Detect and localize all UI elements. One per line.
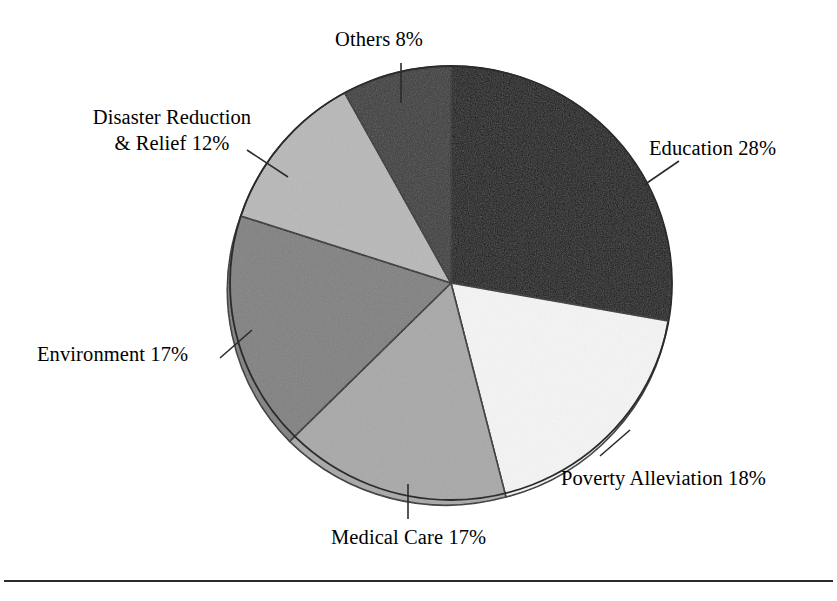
pie-chart-figure: Others 8% Disaster Reduction & Relief 12… [0,0,837,601]
pie-label-environment: Environment 17% [37,342,188,367]
pie-label-disaster-reduction-relief: Disaster Reduction & Relief 12% [72,104,272,156]
pie-label-education: Education 28% [649,136,776,161]
pie-label-poverty-alleviation: Poverty Alleviation 18% [561,466,766,491]
leader-line-education [644,161,679,185]
pie-chart-graphic [0,0,837,601]
bottom-horizontal-rule [4,580,833,582]
pie-label-others: Others 8% [335,27,423,52]
pie-label-disaster-line2: & Relief 12% [72,130,272,156]
pie-label-medical-care: Medical Care 17% [331,525,486,550]
pie-label-disaster-line1: Disaster Reduction [93,106,251,128]
pie-slice-education [451,66,672,321]
